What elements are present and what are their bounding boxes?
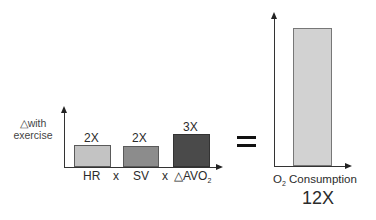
category-label-avo2-sub: 2: [207, 177, 211, 184]
y-axis-label-line1: △with: [4, 117, 62, 129]
right-x-axis: [274, 166, 346, 167]
bar-o2-consumption: [293, 28, 332, 166]
category-label-avo2: △AVO2: [174, 170, 211, 187]
left-y-axis: [64, 112, 65, 167]
bar-sv: [123, 146, 159, 167]
value-label-avo2: 3X: [183, 121, 198, 133]
y-axis-label-line2: exercise: [4, 129, 62, 141]
left-x-axis: [64, 167, 217, 168]
right-y-axis: [274, 18, 275, 166]
y-axis-label: △with exercise: [4, 117, 62, 141]
equals-bottom-bar: [237, 144, 256, 147]
value-label-sv: 2X: [132, 132, 147, 144]
bar-hr: [74, 145, 111, 167]
value-label-hr: 2X: [84, 132, 99, 144]
category-label-sv: SV: [133, 170, 149, 182]
bar-avo2: [173, 134, 210, 167]
category-label-avo2-text: △AVO: [174, 169, 207, 183]
o2-value-label: 12X: [302, 189, 334, 207]
operator-multiply-1: x: [113, 170, 119, 182]
right-x-axis-arrow-icon: [345, 163, 352, 169]
operator-multiply-2: x: [162, 170, 168, 182]
category-label-hr: HR: [83, 170, 100, 182]
equals-top-bar: [237, 136, 256, 139]
o2-label-suffix: Consumption: [286, 173, 357, 185]
right-y-axis-arrow-icon: [271, 12, 277, 19]
o2-label-prefix: O: [273, 173, 282, 185]
left-x-axis-arrow-icon: [216, 164, 223, 170]
left-y-axis-arrow-icon: [61, 106, 67, 113]
